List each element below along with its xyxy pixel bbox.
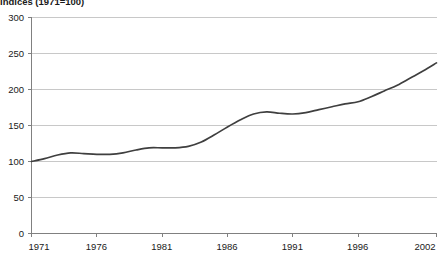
x-axis-tick-label: 1991 (282, 241, 303, 252)
data-line-series-index (32, 63, 437, 162)
x-axis-tick-label: 1986 (216, 241, 237, 252)
y-axis-tick-label: 200 (0, 84, 24, 95)
y-axis-tick-label: 0 (0, 228, 24, 239)
axis-ticks (28, 18, 437, 238)
x-axis-tick-label: 2002 (415, 241, 436, 252)
x-axis-tick-label: 1971 (29, 241, 50, 252)
y-axis-tick-label: 100 (0, 156, 24, 167)
x-axis-tick-label: 1996 (347, 241, 368, 252)
y-axis-tick-label: 250 (0, 48, 24, 59)
y-axis-tick-label: 150 (0, 120, 24, 131)
gridlines (32, 18, 437, 234)
chart-container: Indices (1971=100) 050100150200250300 19… (0, 0, 443, 257)
x-axis-tick-label: 1976 (86, 241, 107, 252)
y-axis-tick-label: 50 (0, 192, 24, 203)
y-axis-tick-label: 300 (0, 12, 24, 23)
line-chart-plot (0, 0, 443, 257)
x-axis-tick-label: 1981 (151, 241, 172, 252)
